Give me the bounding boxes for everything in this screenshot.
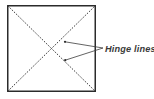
leader-endpoint-lower	[64, 59, 66, 61]
hinge-lines-figure: Hinge lines	[0, 0, 154, 99]
leader-line-lower	[65, 48, 103, 60]
hinge-lines-label: Hinge lines	[105, 44, 154, 54]
leader-line-upper	[65, 42, 103, 48]
figure-root: Hinge lines	[0, 0, 154, 99]
leader-endpoint-upper	[64, 41, 66, 43]
